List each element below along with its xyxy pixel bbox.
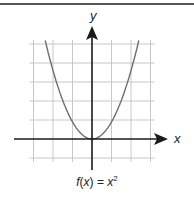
- x-axis-label: x: [173, 131, 181, 146]
- x-axis: [14, 133, 168, 145]
- y-axis-label: y: [89, 8, 98, 23]
- parabola-graph: x y: [0, 0, 194, 201]
- function-caption: f(x) = x2: [0, 174, 194, 189]
- y-axis: [86, 26, 98, 170]
